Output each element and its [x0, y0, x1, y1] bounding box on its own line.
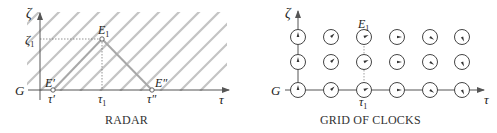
- radar-eprime-label: E′: [44, 76, 55, 90]
- radar-zeta1-label: ζ1: [25, 32, 34, 49]
- clock-icon: [455, 30, 470, 45]
- grid-caption: GRID OF CLOCKS: [320, 113, 421, 127]
- radar-tau-prime-label: τ′: [48, 92, 55, 106]
- clock-icon: [390, 30, 405, 45]
- clock-icon: [324, 55, 339, 70]
- clock-icon: [324, 30, 339, 45]
- clock-icon: [291, 55, 306, 70]
- figure-canvas: ζ ζ1 E1 G E′ E″ τ′ τ1 τ″ τ RADAR ζ E1 G …: [0, 0, 497, 133]
- radar-diagram: ζ ζ1 E1 G E′ E″ τ′ τ1 τ″ τ RADAR: [0, 6, 280, 127]
- radar-tau-axis-label: τ: [219, 92, 225, 107]
- clock-icon: [324, 83, 339, 98]
- radar-tau-doubleprime-label: τ″: [147, 92, 157, 106]
- clock-icon: [423, 55, 438, 70]
- radar-edoubleprime-label: E″: [154, 76, 168, 90]
- grid-e1-label: E1: [357, 17, 369, 33]
- clock-icon: [291, 30, 306, 45]
- clock-icon: [291, 83, 306, 98]
- grid-tau-axis-label: τ: [484, 92, 490, 107]
- clock-icon: [423, 30, 438, 45]
- event-e1-marker: [100, 37, 104, 41]
- grid-worldline-label: G: [271, 83, 281, 98]
- grid-of-clocks-diagram: ζ E1 G τ1 τ GRID OF CLOCKS: [271, 6, 490, 127]
- radar-caption: RADAR: [105, 113, 148, 127]
- clock-icon: [455, 83, 470, 98]
- clock-icon: [455, 55, 470, 70]
- radar-worldline-label: G: [15, 83, 25, 98]
- clock-icon: [357, 55, 372, 70]
- clock-icon: [423, 83, 438, 98]
- clock-grid: [291, 30, 470, 98]
- grid-zeta-axis-label: ζ: [285, 6, 292, 21]
- clock-icon: [390, 83, 405, 98]
- clock-icon: [390, 55, 405, 70]
- radar-e1-label: E1: [97, 23, 109, 39]
- radar-tau1-label: τ1: [98, 92, 106, 108]
